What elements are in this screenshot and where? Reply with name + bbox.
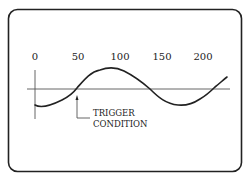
waveform-curve: [35, 68, 227, 107]
tick-label-150: 150: [152, 51, 171, 62]
screen-frame: [9, 10, 242, 172]
trigger-pointer: [76, 95, 91, 118]
tick-label-200: 200: [193, 51, 212, 62]
trigger-label-line2: CONDITION: [93, 119, 148, 129]
tick-label-50: 50: [72, 51, 85, 62]
tick-label-100: 100: [110, 51, 129, 62]
arrow-up-icon: [76, 95, 79, 100]
tick-labels: 0 50 100 150 200: [32, 51, 213, 62]
tick-label-0: 0: [32, 51, 38, 62]
waveform-diagram: 0 50 100 150 200 TRIGGER CONDITION: [0, 0, 246, 178]
trigger-label-line1: TRIGGER: [93, 108, 135, 118]
